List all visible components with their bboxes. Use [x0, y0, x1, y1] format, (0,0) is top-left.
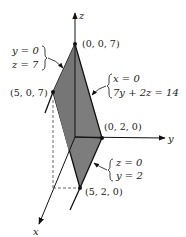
vertex-007 — [73, 42, 77, 46]
x-axis — [39, 137, 75, 224]
annotation-top-line1: y = 0 — [11, 45, 39, 56]
upper-face — [53, 44, 75, 152]
annotation-slant-line2: 7y + 2z = 14 — [113, 87, 179, 98]
point-label-520: (5, 2, 0) — [85, 186, 123, 197]
annotation-top-pointer — [48, 58, 63, 68]
point-label-007: (0, 0, 7) — [82, 38, 120, 49]
annotation-top-brace — [42, 46, 47, 70]
annotation-slant-line1: x = 0 — [113, 73, 140, 84]
annotation-slant-pointer — [92, 86, 106, 95]
point-label-020: (0, 2, 0) — [104, 121, 142, 132]
vertex-020 — [100, 136, 104, 140]
annotation-bottom-line1: z = 0 — [115, 157, 143, 168]
annotation-bottom-brace — [108, 159, 113, 181]
edge-extension-bottom — [70, 188, 80, 210]
plane-diagram: z y x (0, 0, 7) (5, 0, 7) (0, 2, 0) (5, … — [0, 0, 186, 237]
point-label-507: (5, 0, 7) — [10, 87, 48, 98]
y-axis-label: y — [167, 133, 174, 144]
vertex-520 — [78, 186, 82, 190]
annotation-slant-brace — [107, 74, 112, 98]
annotation-bottom-line2: y = 2 — [115, 170, 143, 181]
vertex-507 — [51, 90, 55, 94]
annotation-bottom-pointer — [94, 163, 107, 170]
x-axis-label: x — [33, 226, 39, 237]
z-axis-label: z — [78, 10, 85, 21]
annotation-top-line2: z = 7 — [11, 59, 39, 70]
